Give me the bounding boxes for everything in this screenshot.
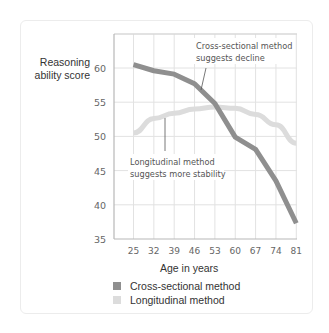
x-tick-label: 25 (128, 246, 139, 256)
legend: Cross-sectional method Longitudinal meth… (113, 279, 240, 307)
x-tick-label: 39 (168, 246, 180, 256)
annotation-longitudinal-text: Longitudinal method (130, 157, 215, 167)
y-tick-label: 45 (94, 166, 106, 177)
x-tick-label: 60 (230, 246, 242, 256)
x-tick-label: 32 (148, 246, 159, 256)
y-tick-label: 40 (94, 200, 106, 211)
x-tick-label: 81 (291, 246, 302, 256)
legend-item-cross-sectional: Cross-sectional method (113, 279, 240, 293)
legend-label-cross-sectional: Cross-sectional method (130, 280, 240, 292)
annotation-longitudinal-text: suggests more stability (130, 169, 226, 179)
x-tick-label: 46 (189, 246, 201, 256)
x-tick-label: 74 (270, 246, 282, 256)
y-axis-label: Reasoning ability score (20, 56, 90, 82)
annotation-cross-sectional-text: suggests decline (196, 53, 265, 63)
annotation-cross-sectional-text: Cross-sectional method (196, 41, 292, 51)
legend-swatch-cross-sectional (113, 282, 121, 290)
y-tick-label: 55 (94, 97, 106, 108)
legend-label-longitudinal: Longitudinal method (130, 294, 225, 306)
x-tick-label: 67 (250, 246, 261, 256)
x-axis-label: Age in years (160, 262, 218, 274)
y-tick-label: 50 (94, 131, 106, 142)
y-tick-label: 60 (94, 63, 106, 74)
x-tick-label: 53 (209, 246, 220, 256)
y-axis-label-line-1: Reasoning (20, 56, 90, 69)
legend-item-longitudinal: Longitudinal method (113, 293, 240, 307)
y-axis-label-line-2: ability score (20, 69, 90, 82)
y-tick-label: 35 (94, 234, 106, 245)
annotation-cross-sectional-leader (201, 68, 206, 90)
legend-swatch-longitudinal (113, 296, 121, 304)
